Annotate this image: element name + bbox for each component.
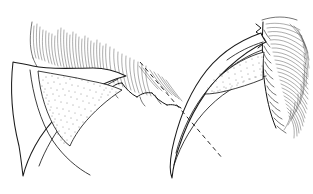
figure-root — [0, 0, 313, 194]
claw-illustration-svg — [0, 0, 313, 194]
